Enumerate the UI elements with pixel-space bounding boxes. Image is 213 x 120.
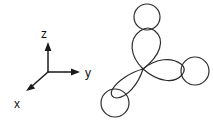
axis-z: z xyxy=(41,27,51,72)
orbital-node-circle-right xyxy=(181,57,209,85)
coordinate-axes: z y x xyxy=(14,27,91,111)
orbital-node-circle-lower-left xyxy=(101,89,129,117)
axis-y: y xyxy=(48,66,91,80)
axis-x-line xyxy=(31,72,48,87)
axis-y-label: y xyxy=(85,66,91,80)
orbital-lobe-top xyxy=(132,28,161,69)
axis-x-label: x xyxy=(14,97,20,111)
axis-y-arrowhead-icon xyxy=(71,69,80,76)
orbital-lobe-right xyxy=(143,60,184,81)
axis-x: x xyxy=(14,72,48,111)
orbital-lobe-lower-left xyxy=(111,69,143,98)
orbital-node-circle-top xyxy=(134,4,160,30)
axis-z-arrowhead-icon xyxy=(45,42,52,51)
orbital-diagram-figure: z y x xyxy=(0,0,213,120)
axis-z-label: z xyxy=(41,27,47,41)
three-lobed-orbital xyxy=(101,4,209,117)
